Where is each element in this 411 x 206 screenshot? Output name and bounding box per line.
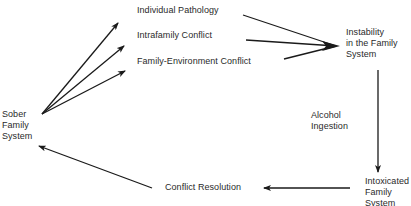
node-conflict-resolution: Conflict Resolution bbox=[165, 182, 241, 193]
node-intoxicated-family-system: Intoxicated Family System bbox=[365, 176, 409, 206]
node-text-line: Family bbox=[365, 187, 409, 198]
arrow-sober-to-family-environment-conflict bbox=[42, 71, 125, 114]
node-intrafamily-conflict: Intrafamily Conflict bbox=[137, 30, 212, 41]
node-text-line: in the Family bbox=[346, 38, 398, 49]
converging-arrowhead-icon bbox=[322, 41, 340, 51]
node-family-environment-conflict: Family-Environment Conflict bbox=[137, 56, 251, 67]
node-text-line: Instability bbox=[346, 27, 398, 38]
node-individual-pathology: Individual Pathology bbox=[137, 5, 219, 16]
arrow-sober-to-intrafamily-conflict bbox=[42, 46, 124, 114]
arrow-conflict-resolution-to-sober bbox=[39, 146, 152, 188]
edge-text-line: Ingestion bbox=[311, 121, 348, 132]
edge-label-alcohol-ingestion: Alcohol Ingestion bbox=[311, 110, 348, 132]
edge-text-line: Alcohol bbox=[311, 110, 348, 121]
node-text-line: Sober bbox=[2, 109, 32, 120]
arrow-sober-to-individual-pathology bbox=[42, 23, 118, 114]
family-alcohol-cycle-diagram: Sober Family System Individual Pathology… bbox=[0, 0, 411, 206]
node-text-line: System bbox=[365, 198, 409, 206]
node-text-line: System bbox=[2, 131, 32, 142]
node-sober-family-system: Sober Family System bbox=[2, 109, 32, 142]
node-text-line: System bbox=[346, 49, 398, 60]
node-instability-in-family-system: Instability in the Family System bbox=[346, 27, 398, 60]
node-text-line: Intoxicated bbox=[365, 176, 409, 187]
node-text-line: Family bbox=[2, 120, 32, 131]
